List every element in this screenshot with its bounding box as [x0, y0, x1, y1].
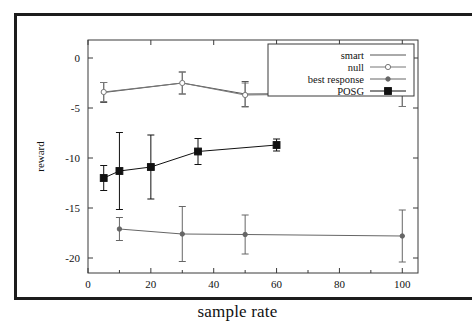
figure-container: 0204060801000-5-10-15-20rewardsmartnullb… — [0, 0, 475, 328]
series-POSG — [100, 133, 280, 210]
y-tick-label: -15 — [65, 202, 80, 214]
data-marker-dot — [400, 234, 404, 238]
data-marker-square — [100, 175, 107, 182]
y-tick-label: -20 — [65, 252, 80, 264]
x-tick-label: 40 — [208, 278, 220, 290]
series-line — [119, 229, 402, 236]
data-marker-circle — [101, 89, 106, 94]
x-tick-label: 0 — [85, 278, 91, 290]
legend-label: POSG — [337, 86, 364, 97]
data-marker-square — [273, 142, 280, 149]
x-tick-label: 60 — [271, 278, 283, 290]
data-marker-dot — [180, 232, 184, 236]
series-best-response — [116, 207, 406, 263]
x-axis-title: sample rate — [0, 302, 475, 322]
data-marker-circle — [243, 92, 248, 97]
data-marker-square — [116, 168, 123, 175]
legend-label: smart — [341, 50, 364, 61]
x-tick-label: 100 — [394, 278, 411, 290]
data-marker-square — [147, 164, 154, 171]
y-tick-label: 0 — [75, 52, 81, 64]
y-tick-label: -10 — [65, 152, 80, 164]
y-axis-title: reward — [34, 141, 46, 172]
data-marker-dot — [243, 232, 247, 236]
y-tick-label: -5 — [71, 102, 81, 114]
data-marker-circle — [385, 64, 390, 69]
legend-label: null — [348, 62, 364, 73]
data-marker-dot — [386, 77, 390, 81]
x-tick-label: 20 — [145, 278, 157, 290]
x-tick-label: 80 — [334, 278, 346, 290]
chart-canvas: 0204060801000-5-10-15-20rewardsmartnullb… — [0, 0, 475, 328]
data-marker-circle — [180, 80, 185, 85]
data-marker-square — [195, 148, 202, 155]
series-line — [104, 145, 277, 178]
data-marker-square — [385, 88, 392, 95]
legend-label: best response — [308, 74, 365, 85]
data-marker-dot — [117, 227, 121, 231]
